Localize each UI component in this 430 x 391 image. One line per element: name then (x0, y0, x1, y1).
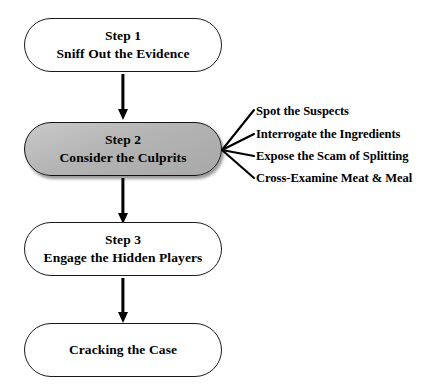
branch-label-interrogate-the-ingredients[interactable]: Interrogate the Ingredients (256, 127, 400, 142)
arrow-head-icon (118, 109, 128, 120)
branch-line-3 (222, 150, 254, 156)
arrow-head-icon (118, 312, 128, 323)
branch-line-4 (222, 150, 254, 178)
connector-arrow-step1-to-step2 (112, 74, 134, 120)
branch-line-1 (222, 110, 254, 150)
branch-label-spot-the-suspects[interactable]: Spot the Suspects (256, 104, 349, 119)
arrow-shaft (121, 278, 124, 313)
arrow-shaft (121, 178, 124, 214)
flow-node-step-1-step-label: Step 1 (105, 28, 141, 44)
flowchart-diagram: Step 1 Sniff Out the Evidence Step 2 Con… (0, 0, 430, 391)
flow-node-step-2[interactable]: Step 2 Consider the Culprits (24, 122, 222, 176)
flow-node-step-1-description: Sniff Out the Evidence (56, 46, 189, 62)
flow-node-step-3-description: Engage the Hidden Players (44, 250, 203, 266)
branch-line-2 (222, 134, 254, 150)
flow-node-step-2-description: Consider the Culprits (59, 150, 186, 166)
flow-node-step-3[interactable]: Step 3 Engage the Hidden Players (24, 222, 222, 276)
arrow-shaft (121, 74, 124, 110)
flow-node-step-3-step-label: Step 3 (105, 232, 141, 248)
flow-node-step-1[interactable]: Step 1 Sniff Out the Evidence (24, 18, 222, 72)
branch-label-expose-the-scam-of-splitting[interactable]: Expose the Scam of Splitting (256, 149, 409, 164)
flow-node-step-2-step-label: Step 2 (105, 132, 141, 148)
connector-arrow-step3-to-conclusion (112, 278, 134, 323)
flow-node-conclusion[interactable]: Cracking the Case (24, 323, 222, 377)
connector-arrow-step2-to-step3 (112, 178, 134, 224)
flow-node-conclusion-description: Cracking the Case (69, 342, 177, 358)
branch-label-cross-examine-meat-and-meal[interactable]: Cross-Examine Meat & Meal (256, 171, 412, 186)
